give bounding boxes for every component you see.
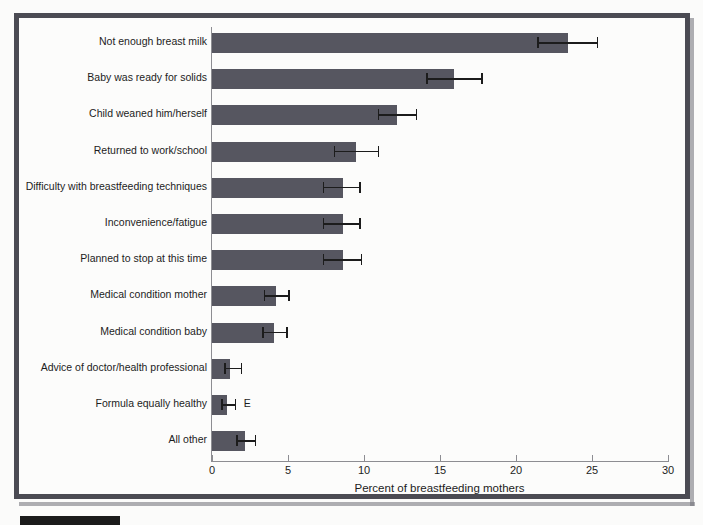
bar-row: All other	[0, 424, 703, 460]
x-tick-label-0: 0	[209, 464, 215, 476]
error-cap-high	[416, 109, 418, 120]
chart-page: 051015202530 Not enough breast milkBaby …	[0, 0, 703, 525]
bar	[212, 33, 568, 53]
error-cap-low	[262, 327, 264, 338]
error-bar	[221, 404, 235, 406]
category-label: Not enough breast milk	[99, 35, 207, 47]
error-cap-low	[323, 218, 325, 229]
error-bar	[264, 295, 288, 297]
quality-flag-annotation: E	[244, 397, 251, 409]
x-tick-label-20: 20	[510, 464, 522, 476]
error-bar	[537, 42, 596, 44]
category-label: Medical condition mother	[90, 288, 207, 300]
x-tick-label-10: 10	[358, 464, 370, 476]
error-bar	[323, 223, 359, 225]
error-cap-high	[481, 73, 483, 84]
bar-row: Child weaned him/herself	[0, 98, 703, 134]
error-bar	[236, 440, 254, 442]
bar-row: Returned to work/school	[0, 135, 703, 171]
error-cap-high	[597, 37, 599, 48]
x-tick-label-15: 15	[434, 464, 446, 476]
error-bar	[378, 114, 416, 116]
category-label: Formula equally healthy	[96, 397, 207, 409]
error-cap-high	[359, 218, 361, 229]
error-cap-high	[361, 254, 363, 265]
error-cap-low	[426, 73, 428, 84]
error-cap-high	[286, 327, 288, 338]
category-label: Child weaned him/herself	[89, 107, 207, 119]
x-axis-title: Percent of breastfeeding mothers	[211, 482, 668, 494]
error-cap-high	[235, 399, 237, 410]
x-tick-label-25: 25	[586, 464, 598, 476]
error-cap-low	[264, 290, 266, 301]
error-cap-low	[221, 399, 223, 410]
bar-row: Inconvenience/fatigue	[0, 207, 703, 243]
bar	[212, 105, 397, 125]
bar-row: Not enough breast milk	[0, 26, 703, 62]
category-label: Medical condition baby	[100, 325, 207, 337]
error-bar	[323, 259, 361, 261]
x-tick-label-30: 30	[662, 464, 674, 476]
bar-row: Medical condition mother	[0, 279, 703, 315]
category-label: Planned to stop at this time	[80, 252, 207, 264]
bar-row: Medical condition baby	[0, 316, 703, 352]
bar-row: Formula equally healthyE	[0, 388, 703, 424]
error-cap-high	[288, 290, 290, 301]
bar-row: Baby was ready for solids	[0, 62, 703, 98]
error-cap-low	[323, 254, 325, 265]
category-label: Baby was ready for solids	[87, 71, 207, 83]
category-label: All other	[168, 433, 207, 445]
error-cap-high	[255, 435, 257, 446]
error-cap-low	[537, 37, 539, 48]
error-cap-high	[241, 363, 243, 374]
bar	[212, 69, 454, 89]
category-label: Returned to work/school	[94, 144, 207, 156]
category-label: Inconvenience/fatigue	[105, 216, 207, 228]
error-bar	[262, 332, 286, 334]
bar-row: Difficulty with breastfeeding techniques	[0, 171, 703, 207]
bar-chart-plot: 051015202530 Not enough breast milkBaby …	[0, 0, 703, 525]
error-bar	[224, 368, 241, 370]
x-tick-label-5: 5	[285, 464, 291, 476]
error-cap-high	[378, 146, 380, 157]
category-label: Advice of doctor/health professional	[41, 361, 207, 373]
error-cap-low	[323, 182, 325, 193]
category-label: Difficulty with breastfeeding techniques	[26, 180, 207, 192]
error-cap-low	[236, 435, 238, 446]
error-bar	[426, 78, 481, 80]
error-cap-high	[359, 182, 361, 193]
error-bar	[334, 151, 378, 153]
bar-row: Advice of doctor/health professional	[0, 352, 703, 388]
error-bar	[323, 187, 359, 189]
error-cap-low	[378, 109, 380, 120]
error-cap-low	[334, 146, 336, 157]
bar-row: Planned to stop at this time	[0, 243, 703, 279]
error-cap-low	[224, 363, 226, 374]
